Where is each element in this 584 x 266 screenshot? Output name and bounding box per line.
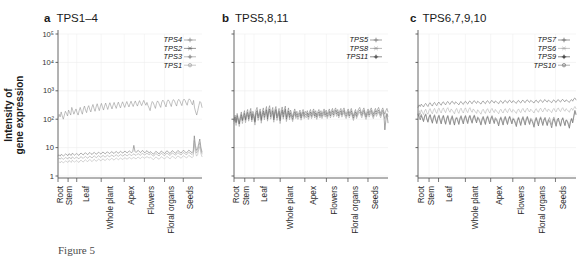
svg-text:Whole plant: Whole plant <box>106 185 115 229</box>
figure-caption: Figure 5 <box>58 244 95 256</box>
svg-text:Stem: Stem <box>242 186 251 205</box>
svg-text:Root: Root <box>56 185 65 203</box>
svg-text:Stem: Stem <box>65 186 74 205</box>
svg-text:Apex: Apex <box>309 186 318 205</box>
panel-a: a TPS1–4 Intensity of gene expression 11… <box>0 0 210 238</box>
panel-c-plot: RootStemLeafWhole plantApexFlowersFloral… <box>388 0 584 238</box>
svg-text:Apex: Apex <box>127 186 136 205</box>
svg-text:Whole plant: Whole plant <box>286 185 295 229</box>
svg-text:Stem: Stem <box>427 186 436 205</box>
svg-text:Floral organs: Floral organs <box>538 186 547 234</box>
svg-text:Flowers: Flowers <box>330 186 339 215</box>
panel-b: b TPS5,8,11 RootStemLeafWhole plantApexF… <box>196 0 396 238</box>
svg-text:Floral organs: Floral organs <box>167 186 176 234</box>
svg-text:1: 1 <box>50 172 54 181</box>
panel-c: c TPS6,7,9,10 RootStemLeafWhole plantApe… <box>388 0 584 238</box>
svg-text:Root: Root <box>232 185 241 203</box>
svg-text:10²: 10² <box>43 115 54 124</box>
svg-text:Root: Root <box>417 185 426 203</box>
svg-text:Whole plant: Whole plant <box>471 185 480 229</box>
svg-text:TPS11: TPS11 <box>346 52 368 61</box>
svg-text:Seeds: Seeds <box>559 186 568 209</box>
svg-text:10³: 10³ <box>43 86 54 95</box>
svg-text:Floral organs: Floral organs <box>351 186 360 234</box>
panel-a-plot: 11010²10³10⁴10⁵RootStemLeafWhole plantAp… <box>0 0 210 238</box>
svg-text:Flowers: Flowers <box>517 186 526 215</box>
svg-text:Seeds: Seeds <box>371 186 380 209</box>
svg-text:Apex: Apex <box>495 186 504 205</box>
svg-text:Leaf: Leaf <box>260 185 269 202</box>
svg-text:TPS1: TPS1 <box>164 61 182 70</box>
svg-text:TPS10: TPS10 <box>533 61 556 70</box>
svg-text:10⁵: 10⁵ <box>42 30 54 39</box>
figure-5: a TPS1–4 Intensity of gene expression 11… <box>0 0 584 266</box>
svg-text:Leaf: Leaf <box>82 185 91 202</box>
svg-text:Seeds: Seeds <box>186 186 195 209</box>
svg-text:Leaf: Leaf <box>445 185 454 202</box>
svg-text:10: 10 <box>46 143 54 152</box>
svg-text:Flowers: Flowers <box>147 186 156 215</box>
panel-b-plot: RootStemLeafWhole plantApexFlowersFloral… <box>196 0 396 238</box>
svg-text:10⁴: 10⁴ <box>42 58 54 67</box>
